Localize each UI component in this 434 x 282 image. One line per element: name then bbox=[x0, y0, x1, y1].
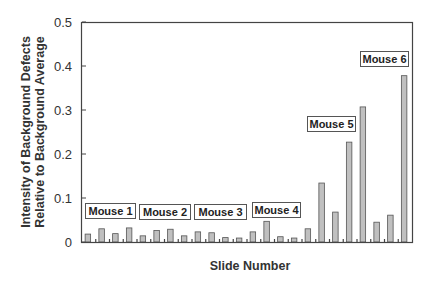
bar bbox=[374, 222, 380, 242]
x-axis-title: Slide Number bbox=[210, 259, 291, 273]
bar-chart: Intensity of Background DefectsRelative … bbox=[0, 0, 434, 282]
bar bbox=[223, 238, 229, 242]
bar bbox=[209, 233, 215, 242]
bar bbox=[250, 232, 256, 242]
mouse-label: Mouse 3 bbox=[195, 205, 247, 220]
bar bbox=[264, 221, 270, 242]
bar bbox=[278, 237, 284, 242]
bar bbox=[195, 232, 201, 242]
bar bbox=[126, 228, 132, 242]
bar bbox=[113, 234, 119, 242]
bar bbox=[346, 142, 352, 242]
mouse-label: Mouse 4 bbox=[253, 203, 301, 218]
y-tick-label: 0.4 bbox=[54, 59, 72, 74]
bar bbox=[401, 76, 407, 242]
y-axis-title-line: Relative to Background Average bbox=[33, 36, 47, 228]
bar bbox=[181, 236, 187, 242]
y-axis-title: Intensity of Background DefectsRelative … bbox=[19, 36, 47, 228]
svg-text:Mouse 2: Mouse 2 bbox=[143, 206, 187, 218]
svg-text:Mouse 4: Mouse 4 bbox=[254, 204, 299, 216]
bar bbox=[99, 229, 105, 242]
bar bbox=[388, 215, 394, 242]
svg-text:Mouse 6: Mouse 6 bbox=[362, 53, 406, 65]
bar bbox=[140, 236, 146, 242]
svg-text:Mouse 1: Mouse 1 bbox=[88, 205, 132, 217]
y-tick-label: 0.3 bbox=[54, 103, 72, 118]
mouse-label: Mouse 2 bbox=[140, 205, 191, 220]
mouse-label: Mouse 5 bbox=[308, 117, 356, 132]
bar bbox=[333, 212, 339, 242]
bar bbox=[360, 107, 366, 242]
y-axis-title-line: Intensity of Background Defects bbox=[19, 36, 33, 228]
bar bbox=[236, 238, 242, 242]
svg-text:Mouse 5: Mouse 5 bbox=[309, 118, 353, 130]
mouse-label: Mouse 1 bbox=[86, 204, 136, 219]
y-tick-label: 0.5 bbox=[54, 15, 72, 30]
bar bbox=[168, 229, 174, 242]
bar bbox=[291, 238, 297, 242]
svg-text:Mouse 3: Mouse 3 bbox=[198, 206, 242, 218]
y-tick-label: 0.2 bbox=[54, 147, 72, 162]
y-tick-label: 0 bbox=[65, 235, 72, 250]
bar bbox=[85, 234, 91, 242]
bar bbox=[319, 183, 325, 242]
y-tick-label: 0.1 bbox=[54, 191, 72, 206]
bar bbox=[305, 229, 311, 242]
mouse-label: Mouse 6 bbox=[361, 52, 409, 67]
bar bbox=[154, 231, 160, 242]
